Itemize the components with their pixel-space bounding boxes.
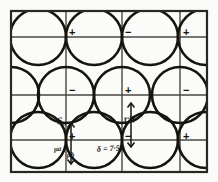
paper-background: [0, 0, 218, 182]
diagram-canvas: [0, 0, 218, 182]
figure-container: + − + − + − + − + S₀ δ = 7·50 r·η μa μb: [0, 0, 218, 182]
